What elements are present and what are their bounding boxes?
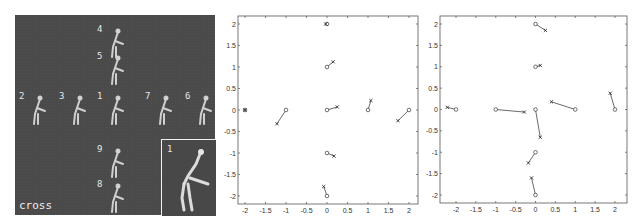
data-pair <box>324 22 329 26</box>
y-tick-label: 0 <box>434 106 438 113</box>
x-tick-label: -0.5 <box>300 207 312 214</box>
target-marker <box>573 108 577 112</box>
x-tick-label: 1 <box>573 206 577 213</box>
target-marker <box>534 193 538 197</box>
y-tick-label: -2 <box>230 193 236 200</box>
x-tick-label: -2 <box>453 206 459 213</box>
pose-figure-2 <box>34 97 45 125</box>
x-tick-label: -1.5 <box>470 206 482 213</box>
inset-figure <box>162 140 216 216</box>
x-tick-label: -1.5 <box>259 207 271 214</box>
target-marker <box>534 22 538 26</box>
y-tick-label: 1 <box>232 64 236 71</box>
x-tick-label: 1.5 <box>384 207 394 214</box>
target-marker <box>325 151 329 155</box>
x-tick-label: 0.5 <box>343 207 353 214</box>
pose-figure-1 <box>112 97 123 125</box>
y-tick-label: -0.5 <box>224 128 236 135</box>
target-marker <box>407 108 411 112</box>
pose-caption: cross <box>19 199 52 212</box>
y-tick-label: -2 <box>432 192 438 199</box>
x-tick-label: -2 <box>242 207 248 214</box>
y-tick-label: -0.5 <box>426 127 438 134</box>
y-tick-label: 1.5 <box>226 42 236 49</box>
inset-pose: 1 <box>161 139 216 216</box>
x-tick-label: -0.5 <box>510 206 522 213</box>
target-marker <box>325 108 329 112</box>
pose-figure-8 <box>112 185 123 213</box>
x-tick-label: -1 <box>493 206 499 213</box>
y-tick-label: 1.5 <box>428 42 438 49</box>
y-tick-label: 0 <box>232 107 236 114</box>
pose-figure-5 <box>112 57 123 85</box>
target-marker <box>366 108 370 112</box>
x-tick-label: -1 <box>283 207 289 214</box>
x-tick-label: 0 <box>534 206 538 213</box>
x-tick-label: 0.5 <box>551 206 561 213</box>
target-marker <box>454 108 458 112</box>
target-marker <box>613 108 617 112</box>
y-tick-label: -1.5 <box>426 170 438 177</box>
scatter-plot-2: -2-1.5-1-0.500.511.5221.510.50-0.5-1-1.5… <box>425 0 638 224</box>
y-tick-label: 2 <box>434 21 438 28</box>
x-tick-label: 2 <box>407 207 411 214</box>
data-pair <box>243 108 247 112</box>
y-tick-label: 1 <box>434 63 438 70</box>
y-tick-label: 0.5 <box>428 85 438 92</box>
y-tick-label: 0.5 <box>226 85 236 92</box>
pose-image-panel: 452317698 1 <box>15 15 215 215</box>
x-tick-label: 0 <box>325 207 329 214</box>
pose-figure-6 <box>200 97 211 125</box>
target-marker <box>284 108 288 112</box>
x-tick-label: 2 <box>613 206 617 213</box>
y-tick-label: -1 <box>432 149 438 156</box>
target-marker <box>325 65 329 69</box>
pose-figure-3 <box>74 97 85 125</box>
y-tick-label: 2 <box>232 21 236 28</box>
target-marker <box>534 108 538 112</box>
x-tick-label: 1 <box>366 207 370 214</box>
pose-figure-9 <box>112 150 123 178</box>
pose-figure-7 <box>160 97 171 125</box>
pose-figure-4 <box>112 30 123 58</box>
y-tick-label: -1 <box>230 150 236 157</box>
target-marker <box>534 65 538 69</box>
scatter-plot-1: -2-1.5-1-0.500.511.5221.510.50-0.5-1-1.5… <box>215 0 425 224</box>
x-tick-label: 1.5 <box>590 206 600 213</box>
target-marker <box>494 108 498 112</box>
target-marker <box>534 150 538 154</box>
y-tick-label: -1.5 <box>224 171 236 178</box>
target-marker <box>325 194 329 198</box>
